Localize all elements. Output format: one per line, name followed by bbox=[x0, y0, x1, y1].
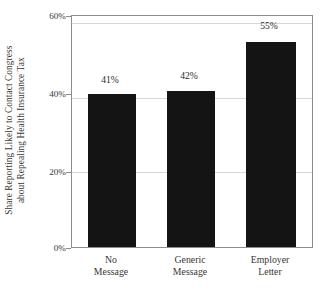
bar-value-label-no-message: 41% bbox=[77, 75, 143, 85]
x-category-label-generic-message: Generic Message bbox=[157, 254, 223, 279]
bar-value-label-employer-letter: 55% bbox=[236, 21, 302, 31]
x-category-label-employer-letter: Employer Letter bbox=[237, 254, 303, 279]
y-tick-label-60: 60% bbox=[28, 12, 66, 21]
y-axis-tick-labels: 60% 40% 20% 0% bbox=[28, 0, 66, 290]
y-tick-label-20: 20% bbox=[28, 168, 66, 177]
bar-generic-message bbox=[167, 91, 215, 247]
bar-value-label-generic-message: 42% bbox=[156, 71, 222, 81]
x-category-label-no-message: No Message bbox=[78, 254, 144, 279]
x-category-generic-message-line-1: Generic bbox=[157, 254, 223, 266]
y-tick-label-0: 0% bbox=[28, 244, 66, 253]
plot-area bbox=[71, 15, 313, 248]
x-category-employer-letter-line-1: Employer bbox=[237, 254, 303, 266]
bar-employer-letter bbox=[246, 42, 296, 247]
x-category-employer-letter-line-2: Letter bbox=[237, 266, 303, 278]
bar-no-message bbox=[88, 94, 136, 247]
bar-chart-figure: Share Reporting Likely to Contact Congre… bbox=[0, 0, 326, 290]
y-axis-title-line-2: about Repealing Health Insurance Tax bbox=[16, 45, 28, 214]
y-tick-mark-0 bbox=[66, 248, 71, 249]
x-category-no-message-line-2: Message bbox=[78, 266, 144, 278]
y-tick-label-40: 40% bbox=[28, 90, 66, 99]
x-category-no-message-line-1: No bbox=[78, 254, 144, 266]
y-axis-title-line-1: Share Reporting Likely to Contact Congre… bbox=[4, 45, 16, 214]
x-category-generic-message-line-2: Message bbox=[157, 266, 223, 278]
